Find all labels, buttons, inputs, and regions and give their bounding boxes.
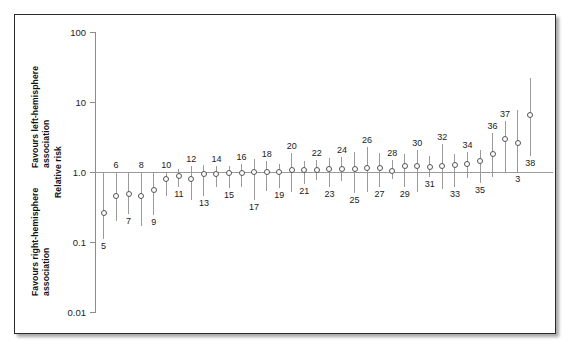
y-tick-0.1 bbox=[90, 242, 95, 243]
data-point-marker[interactable] bbox=[264, 169, 270, 175]
favours-right-label-line2: association bbox=[41, 248, 51, 296]
data-point-marker[interactable] bbox=[439, 163, 445, 169]
data-point-label: 24 bbox=[337, 145, 347, 155]
data-point-label: 14 bbox=[211, 154, 221, 164]
data-point-marker[interactable] bbox=[464, 161, 470, 167]
data-point-marker[interactable] bbox=[176, 173, 182, 179]
data-point-label: 37 bbox=[500, 109, 510, 119]
confidence-interval-line bbox=[454, 154, 455, 186]
data-point-marker[interactable] bbox=[239, 170, 245, 176]
data-point-label: 21 bbox=[299, 186, 309, 196]
data-point-label: 5 bbox=[101, 241, 106, 251]
data-point-marker[interactable] bbox=[364, 165, 370, 171]
data-point-marker[interactable] bbox=[163, 176, 169, 182]
y-tick-100 bbox=[90, 32, 95, 33]
data-point-label: 9 bbox=[151, 217, 156, 227]
data-point-label: 20 bbox=[287, 141, 297, 151]
data-point-marker[interactable] bbox=[515, 140, 521, 146]
data-point-marker[interactable] bbox=[314, 167, 320, 173]
data-point-marker[interactable] bbox=[377, 165, 383, 171]
data-point-label: 16 bbox=[237, 152, 247, 162]
y-tick-0.01 bbox=[90, 312, 95, 313]
data-point-marker[interactable] bbox=[452, 162, 458, 168]
data-point-label: 29 bbox=[400, 189, 410, 199]
data-point-label: 36 bbox=[488, 121, 498, 131]
data-point-marker[interactable] bbox=[352, 166, 358, 172]
y-tick-label: 0.01 bbox=[52, 307, 86, 318]
data-point-label: 22 bbox=[312, 148, 322, 158]
confidence-interval-line bbox=[254, 159, 255, 200]
data-point-marker[interactable] bbox=[289, 167, 295, 173]
data-point-marker[interactable] bbox=[527, 112, 533, 118]
confidence-interval-line bbox=[354, 152, 355, 193]
y-axis-title: Relative risk bbox=[53, 146, 63, 198]
data-point-label: 25 bbox=[349, 195, 359, 205]
reference-line bbox=[95, 172, 553, 173]
data-point-label: 38 bbox=[525, 158, 535, 168]
data-point-marker[interactable] bbox=[188, 176, 194, 182]
favours-right-label-line1: Favours right-hemisphere bbox=[30, 188, 40, 296]
y-tick-10 bbox=[90, 102, 95, 103]
data-point-marker[interactable] bbox=[251, 169, 257, 175]
data-point-marker[interactable] bbox=[101, 210, 107, 216]
data-point-marker[interactable] bbox=[126, 191, 132, 197]
data-point-marker[interactable] bbox=[339, 166, 345, 172]
data-point-label: 11 bbox=[174, 189, 183, 199]
confidence-interval-line bbox=[505, 121, 506, 172]
data-point-label: 10 bbox=[161, 160, 171, 170]
data-point-marker[interactable] bbox=[490, 151, 496, 157]
data-point-marker[interactable] bbox=[402, 163, 408, 169]
data-point-label: 27 bbox=[375, 189, 385, 199]
y-tick-label: 0.1 bbox=[52, 237, 86, 248]
data-point-marker[interactable] bbox=[389, 168, 395, 174]
data-point-marker[interactable] bbox=[301, 167, 307, 173]
data-point-label: 28 bbox=[387, 148, 397, 158]
data-point-label: 7 bbox=[126, 216, 131, 226]
data-point-label: 3 bbox=[515, 174, 520, 184]
favours-left-label-line2: association bbox=[41, 120, 51, 168]
data-point-label: 31 bbox=[425, 179, 435, 189]
forest-plot: 100101.00.10.01 Favours left-hemisphere … bbox=[0, 0, 584, 361]
data-point-marker[interactable] bbox=[213, 171, 219, 177]
confidence-interval-line bbox=[203, 165, 204, 195]
favours-left-label-line1: Favours left-hemisphere bbox=[30, 66, 40, 168]
confidence-interval-line bbox=[103, 172, 104, 239]
data-point-label: 12 bbox=[186, 154, 196, 164]
data-point-marker[interactable] bbox=[201, 171, 207, 177]
data-point-marker[interactable] bbox=[414, 163, 420, 169]
data-point-marker[interactable] bbox=[151, 187, 157, 193]
y-tick-1.0 bbox=[90, 172, 95, 173]
data-point-label: 13 bbox=[199, 198, 209, 208]
data-point-marker[interactable] bbox=[276, 169, 282, 175]
confidence-interval-line bbox=[153, 172, 154, 215]
data-point-label: 33 bbox=[450, 189, 460, 199]
confidence-interval-line bbox=[417, 150, 418, 192]
confidence-interval-line bbox=[329, 158, 330, 187]
y-tick-label: 10 bbox=[52, 97, 86, 108]
confidence-interval-line bbox=[141, 172, 142, 226]
confidence-interval-line bbox=[191, 166, 192, 199]
data-point-marker[interactable] bbox=[113, 193, 119, 199]
data-point-marker[interactable] bbox=[138, 193, 144, 199]
data-point-marker[interactable] bbox=[477, 158, 483, 164]
data-point-marker[interactable] bbox=[326, 166, 332, 172]
y-tick-label: 100 bbox=[52, 27, 86, 38]
data-point-label: 6 bbox=[114, 160, 119, 170]
data-point-marker[interactable] bbox=[226, 170, 232, 176]
confidence-interval-line bbox=[480, 150, 481, 183]
confidence-interval-line bbox=[266, 161, 267, 191]
data-point-label: 26 bbox=[362, 135, 372, 145]
data-point-label: 15 bbox=[224, 190, 234, 200]
data-point-label: 23 bbox=[324, 189, 334, 199]
confidence-interval-line bbox=[229, 166, 230, 188]
data-point-label: 35 bbox=[475, 185, 485, 195]
data-point-marker[interactable] bbox=[427, 164, 433, 170]
data-point-label: 8 bbox=[139, 160, 144, 170]
confidence-interval-line bbox=[279, 164, 280, 188]
data-point-label: 17 bbox=[249, 202, 259, 212]
data-point-label: 19 bbox=[274, 190, 284, 200]
data-point-label: 30 bbox=[412, 138, 422, 148]
data-point-marker[interactable] bbox=[502, 136, 508, 142]
data-point-label: 34 bbox=[462, 140, 472, 150]
confidence-interval-line bbox=[404, 154, 405, 186]
